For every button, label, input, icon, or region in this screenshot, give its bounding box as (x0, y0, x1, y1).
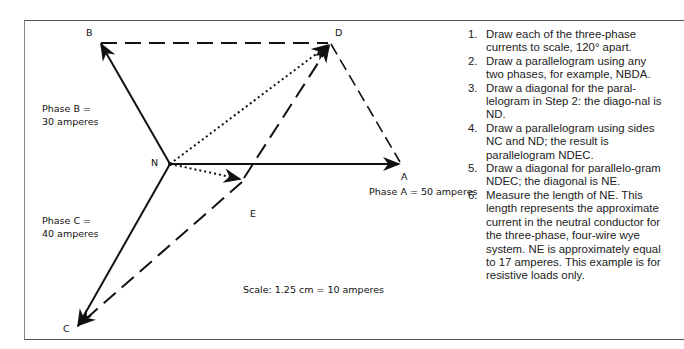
step-text: Draw a diagonal for the paral-lelogram i… (486, 82, 661, 121)
step-text: Draw a parallelogram using any two phase… (486, 55, 651, 80)
step-text: Draw a diagonal for parallelo-gram NDEC;… (486, 162, 661, 187)
step-number: 3. (468, 82, 478, 95)
point-label-e: E (250, 208, 256, 219)
diagonal-ne (170, 164, 240, 179)
parallelogram-side-da (331, 44, 400, 162)
step-number: 4. (468, 122, 478, 135)
scale-label: Scale: 1.25 cm = 10 amperes (243, 283, 384, 296)
phase-c-label-line2: 40 amperes (42, 227, 99, 240)
instruction-steps: 1.Draw each of the three-phase currents … (468, 28, 666, 283)
neutral-point (168, 162, 172, 166)
step-number: 1. (468, 28, 478, 41)
step-text: Measure the length of NE. This length re… (486, 189, 661, 281)
parallelogram-side-ed (244, 46, 329, 178)
phase-b-vector (101, 44, 170, 164)
phase-b-label-line1: Phase B = (42, 102, 99, 115)
diagonal-nd (170, 45, 328, 164)
phase-c-label-line1: Phase C = (42, 214, 99, 227)
point-label-b: B (86, 27, 93, 38)
step-number: 6. (468, 189, 478, 202)
point-label-c: C (63, 323, 70, 334)
phase-b-label: Phase B = 30 amperes (42, 102, 99, 128)
step-text: Draw each of the three-phase currents to… (486, 28, 636, 53)
step-item: 1.Draw each of the three-phase currents … (468, 28, 666, 55)
phase-c-vector (78, 164, 170, 326)
point-label-d: D (335, 27, 342, 38)
phase-c-label: Phase C = 40 amperes (42, 214, 99, 240)
step-text: Draw a parallelogram using sides NC and … (486, 122, 654, 161)
step-item: 2.Draw a parallelogram using any two pha… (468, 55, 666, 82)
step-item: 5.Draw a diagonal for parallelo-gram NDE… (468, 162, 666, 189)
point-label-a: A (401, 171, 408, 182)
point-label-n: N (151, 157, 158, 168)
phase-a-label: Phase A = 50 amperes (369, 185, 477, 198)
step-item: 4.Draw a parallelogram using sides NC an… (468, 122, 666, 162)
step-number: 5. (468, 162, 478, 175)
step-item: 3.Draw a diagonal for the paral-lelogram… (468, 82, 666, 122)
step-item: 6.Measure the length of NE. This length … (468, 189, 666, 283)
step-number: 2. (468, 55, 478, 68)
parallelogram-side-ec (79, 182, 242, 325)
phase-b-label-line2: 30 amperes (42, 115, 99, 128)
